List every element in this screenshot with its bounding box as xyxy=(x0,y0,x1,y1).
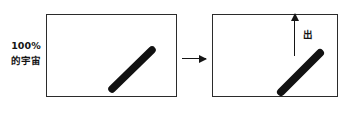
source-label-line1: 100% xyxy=(4,38,48,53)
source-label: 100% 的宇宙 xyxy=(4,38,48,68)
diagram-canvas: 100% 的宇宙 光子 入 出 xyxy=(0,0,351,113)
diagonal-slab-left xyxy=(105,44,157,94)
diagonal-slab-left-shape xyxy=(105,44,157,94)
diagonal-slab-right-shape xyxy=(274,46,326,98)
source-label-line2: 的宇宙 xyxy=(4,53,48,68)
diagonal-slab-right xyxy=(274,46,326,98)
transition-arrow-icon xyxy=(182,58,206,59)
exit-label: 出 xyxy=(303,29,313,40)
